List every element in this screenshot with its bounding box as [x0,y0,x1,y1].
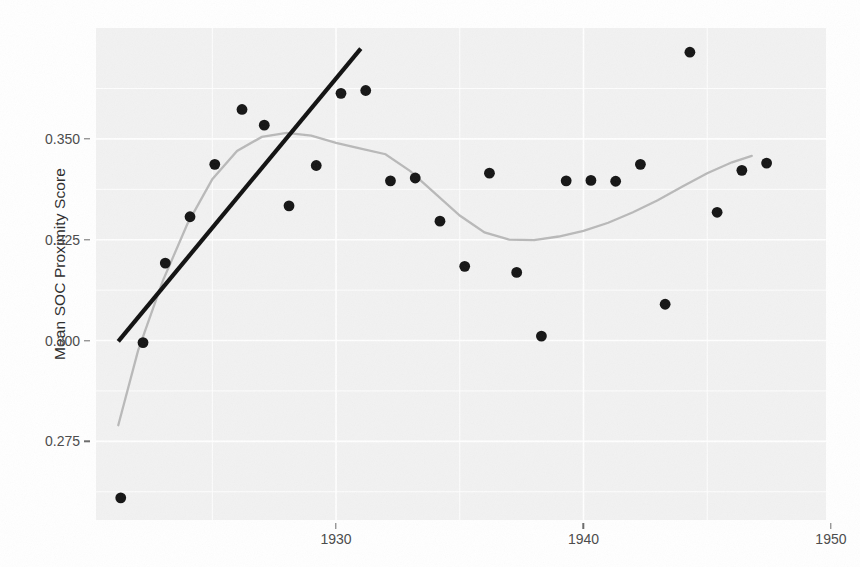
plot-panel [96,28,826,520]
loess-smooth-line [118,133,751,425]
y-tick-label: 0.275 [16,433,80,449]
y-tick-mark [84,340,90,341]
x-tick-label: 1930 [320,531,351,547]
x-tick-mark [335,523,336,529]
y-tick-label: 0.325 [16,232,80,248]
y-tick-label: 0.300 [16,333,80,349]
linear-trend-line [118,49,361,342]
scatter-points [115,47,772,503]
x-tick-label: 1950 [815,531,846,547]
grid-lines [96,28,826,520]
plot-area-svg [96,28,826,520]
y-axis-tick-labels: 0.2750.3000.3250.350 [16,0,80,567]
x-axis-tick-labels: 193019401950 [0,523,860,553]
y-tick-mark [84,441,90,442]
x-tick-label: 1940 [568,531,599,547]
y-tick-mark [84,239,90,240]
y-tick-mark [84,138,90,139]
y-tick-label: 0.350 [16,131,80,147]
chart-figure: Mean SOC Proximity Score 0.2750.3000.325… [0,0,860,567]
x-tick-mark [830,523,831,529]
x-tick-mark [583,523,584,529]
